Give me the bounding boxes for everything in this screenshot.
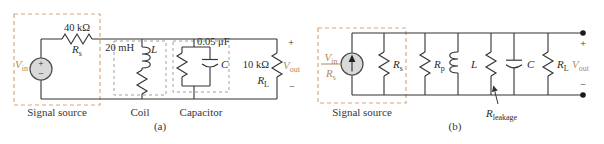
rs-name-sub-b: s: [400, 64, 403, 73]
capacitor-plate-bottom-a: [202, 64, 218, 67]
inductor-symbol-a: [142, 47, 150, 68]
capacitor-branch-wires: [182, 39, 210, 99]
rleak-name-sub: leakage: [493, 113, 518, 122]
circuit-svg: + − Vin 40 kΩ Rs 20 mH L 0.05 μF C 10 kΩ…: [0, 0, 604, 144]
capacitor-plate-bottom-b: [506, 65, 522, 68]
signal-source-caption-b: Signal source: [332, 106, 392, 118]
capacitor-caption: Capacitor: [180, 106, 223, 118]
capacitor-name-label-a: C: [221, 58, 229, 70]
resistor-rl-symbol-a: [272, 53, 282, 77]
rp-name-sub: p: [441, 64, 445, 73]
inductor-symbol-b: [450, 52, 458, 73]
figure-caption-a: (a): [154, 120, 167, 133]
capacitor-leak-resistor-symbol: [177, 53, 187, 77]
figure-caption-b: (b): [449, 120, 462, 133]
source-fraction-numerator: Vin: [325, 51, 338, 66]
terminal-dot-top: [580, 30, 586, 36]
resistor-rs-symbol-b: [379, 52, 389, 76]
inductor-name-label-b: L: [470, 58, 477, 70]
vout-minus-label-a: −: [289, 81, 295, 92]
circuit-b: Vin Rs Rs Rp L C RL Vout + − Rleakage Si…: [318, 28, 590, 133]
vout-plus-label-a: +: [288, 37, 294, 48]
vout-label-sub-b: out: [579, 64, 590, 73]
coil-resistance-symbol: [137, 70, 147, 94]
rs-name-label-a: Rs: [71, 43, 82, 58]
rl-name-label-a: RL: [256, 74, 269, 89]
terminal-dot-bottom: [580, 92, 586, 98]
vout-plus-label-b: +: [580, 38, 586, 49]
resistor-rp-symbol: [420, 52, 430, 76]
capacitor-name-label-b: C: [527, 58, 535, 70]
inductor-name-label-a: L: [150, 43, 157, 55]
rl-name-sub-a: L: [264, 80, 269, 89]
rs-value-label: 40 kΩ: [64, 22, 90, 33]
resistor-rleak-symbol: [486, 52, 496, 76]
rl-value-label: 10 kΩ: [243, 59, 269, 70]
rleak-name-label: Rleakage: [485, 107, 518, 122]
rp-name-label: Rp: [433, 58, 445, 73]
rs-name-label-b: Rs: [392, 58, 403, 73]
vout-label-b: Vout: [572, 58, 590, 73]
inductance-value-label: 20 mH: [105, 42, 134, 53]
rl-name-label-b: RL: [556, 58, 569, 73]
rl-name-sub-b: L: [564, 64, 569, 73]
vin-label-a: Vin: [15, 58, 28, 73]
source-den-sub: s: [333, 73, 336, 82]
circuit-a: + − Vin 40 kΩ Rs 20 mH L 0.05 μF C 10 kΩ…: [14, 14, 301, 133]
rs-name-sub-a: s: [79, 49, 82, 58]
vout-label-a: Vout: [283, 59, 301, 74]
capacitance-value-label: 0.05 μF: [197, 36, 230, 47]
source-fraction-denominator: Rs: [325, 67, 336, 82]
vout-minus-label-b: −: [580, 79, 586, 90]
resistor-rl-symbol-b: [543, 52, 553, 76]
circuit-figure: + − Vin 40 kΩ Rs 20 mH L 0.05 μF C 10 kΩ…: [0, 0, 604, 144]
signal-source-caption-a: Signal source: [27, 106, 87, 118]
source-minus-label-a: −: [38, 68, 44, 79]
coil-caption: Coil: [131, 106, 150, 118]
vin-label-sub: in: [22, 64, 28, 73]
vout-label-sub-a: out: [290, 65, 301, 74]
